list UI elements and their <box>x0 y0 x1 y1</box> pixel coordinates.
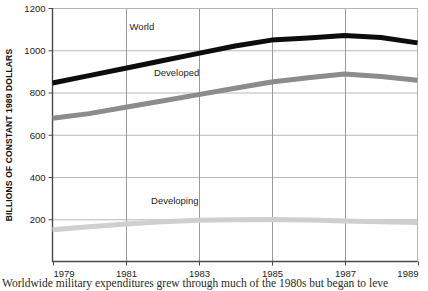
series-label-developed: Developed <box>154 67 199 78</box>
series-label-world: World <box>130 21 155 32</box>
y-tick-label-600: 600 <box>30 130 46 141</box>
y-tick-label-1000: 1000 <box>24 45 45 56</box>
figure-caption: Worldwide military expenditures grew thr… <box>2 277 428 290</box>
y-tick-label-400: 400 <box>30 172 46 183</box>
x-axis-ticks: 197919811983198519871989 <box>54 262 419 279</box>
y-tick-label-1200: 1200 <box>24 3 45 14</box>
line-chart: 20040060080010001200 1979198119831985198… <box>0 0 428 291</box>
y-tick-label-800: 800 <box>30 87 46 98</box>
military-expenditures-figure: BILLIONS OF CONSTANT 1989 DOLLARS 200400… <box>0 0 428 291</box>
y-axis-ticks: 20040060080010001200 <box>24 3 52 225</box>
y-tick-label-200: 200 <box>30 214 46 225</box>
series-label-developing: Developing <box>151 195 199 206</box>
